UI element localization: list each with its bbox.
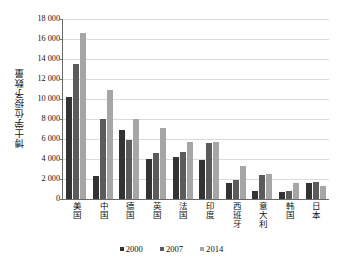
x-axis-tick-labels: 美国中国德国英国法国印度西班牙意大利韩国日本 <box>62 202 328 246</box>
x-axis-label-cell: 中国 <box>89 202 116 246</box>
legend-swatch-icon <box>200 247 204 251</box>
bar <box>119 130 125 200</box>
y-axis-tick-label: 10 000 <box>24 95 60 103</box>
y-axis-tick-label: 16 000 <box>24 35 60 43</box>
bar <box>80 33 86 199</box>
x-axis-label-cell: 美国 <box>62 202 89 246</box>
y-axis-tick-labels: 18 00016 00014 00012 00010 0008 0006 000… <box>24 12 60 207</box>
bar-group <box>116 19 143 199</box>
bar-group <box>276 19 303 199</box>
legend-swatch-icon <box>120 247 124 251</box>
x-axis-label-cell: 西班牙 <box>222 202 249 246</box>
bar <box>226 183 232 199</box>
bar <box>153 153 159 199</box>
bar-group <box>63 19 90 199</box>
x-axis-label-cell: 德国 <box>115 202 142 246</box>
legend-label: 2014 <box>206 245 223 254</box>
x-axis-label-cell: 意大利 <box>248 202 275 246</box>
x-axis-tick-label: 英国 <box>150 202 159 220</box>
y-axis-tick-label: 8 000 <box>24 115 60 123</box>
legend-item[interactable]: 2007 <box>160 245 183 254</box>
bar <box>233 180 239 199</box>
bar-group <box>169 19 196 199</box>
bar <box>206 143 212 199</box>
y-axis-tick-label: 12 000 <box>24 75 60 83</box>
legend-swatch-icon <box>160 247 164 251</box>
y-axis-tick-label: 14 000 <box>24 55 60 63</box>
bar <box>173 157 179 200</box>
x-axis-tick-label: 法国 <box>177 202 186 220</box>
legend-item[interactable]: 2000 <box>120 245 143 254</box>
bar <box>133 119 139 199</box>
bar <box>100 119 106 200</box>
bar <box>199 160 205 199</box>
y-axis-tick-label: 4 000 <box>24 155 60 163</box>
bar-groups <box>63 19 329 199</box>
bar <box>320 186 326 199</box>
bar-group <box>196 19 223 199</box>
bar <box>213 142 219 199</box>
bar-group <box>90 19 117 199</box>
bar <box>286 191 292 199</box>
x-axis-tick-label: 美国 <box>71 202 80 220</box>
bar-group <box>249 19 276 199</box>
x-axis-label-cell: 印度 <box>195 202 222 246</box>
x-axis-tick-label: 中国 <box>97 202 106 220</box>
x-axis-label-cell: 法国 <box>168 202 195 246</box>
x-axis-tick-label: 日本 <box>310 202 319 220</box>
legend-item[interactable]: 2014 <box>200 245 223 254</box>
bar-group <box>143 19 170 199</box>
y-axis-tick-label: 2 000 <box>24 175 60 183</box>
plot-area <box>62 19 329 200</box>
bar <box>279 192 285 199</box>
legend-label: 2007 <box>166 245 183 254</box>
bar <box>306 183 312 199</box>
bar <box>266 174 272 199</box>
bar <box>240 166 246 200</box>
bar <box>187 142 193 199</box>
bar <box>126 140 132 200</box>
y-axis-tick-label: 18 000 <box>24 15 60 23</box>
bar-group <box>302 19 329 199</box>
bar <box>73 64 79 200</box>
x-axis-tick-label: 德国 <box>124 202 133 220</box>
y-axis-tickmark <box>60 199 63 200</box>
bar-group <box>223 19 250 199</box>
legend-label: 2000 <box>126 245 143 254</box>
y-axis-tick-label: 6 000 <box>24 135 60 143</box>
bar <box>259 175 265 199</box>
bar <box>180 152 186 199</box>
x-axis-tick-label: 印度 <box>204 202 213 220</box>
bar <box>160 128 166 200</box>
x-axis-tick-label: 韩国 <box>283 202 292 220</box>
bar <box>313 182 319 199</box>
x-axis-label-cell: 英国 <box>142 202 169 246</box>
x-axis-label-cell: 日本 <box>301 202 328 246</box>
bar <box>252 191 258 199</box>
y-axis-tick-label: 0 <box>24 195 60 203</box>
bar <box>146 159 152 199</box>
bar-chart: 博士学位授予数量 18 00016 00014 00012 00010 0008… <box>0 0 343 269</box>
bar <box>107 90 113 199</box>
x-axis-tick-label: 西班牙 <box>230 202 239 229</box>
chart-legend: 200020072014 <box>0 245 343 254</box>
bar <box>93 176 99 199</box>
x-axis-label-cell: 韩国 <box>275 202 302 246</box>
bar <box>66 97 72 199</box>
bar <box>293 183 299 199</box>
x-axis-tick-label: 意大利 <box>257 202 266 229</box>
